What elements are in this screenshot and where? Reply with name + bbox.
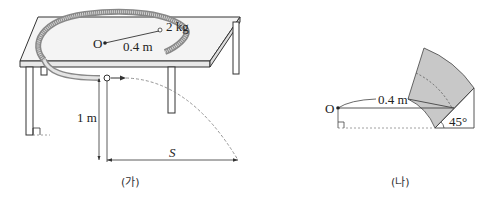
height-label: 1 m <box>77 110 97 125</box>
radius-leader-b <box>338 99 376 108</box>
height-arrow-bottom <box>98 156 101 160</box>
diagram-canvas: O 0.4 m 2 kg 1 m S (가) O 0.4 m <box>0 0 491 200</box>
figure-b: O 0.4 m 45° (나) <box>325 48 474 189</box>
figure-a: O 0.4 m 2 kg 1 m S (가) <box>20 12 240 189</box>
center-point-b <box>336 106 340 110</box>
angle-arc <box>441 122 444 128</box>
caption-b: (나) <box>391 176 410 189</box>
distance-arrow-right <box>233 158 238 161</box>
right-angle-mark-a <box>33 128 40 135</box>
velocity-arrowhead <box>120 76 126 81</box>
radius-label-a: 0.4 m <box>123 39 153 54</box>
center-label-a: O <box>93 36 102 51</box>
ball <box>104 75 110 81</box>
right-angle-mark-b <box>338 122 344 128</box>
table-leg-back-right <box>233 22 239 74</box>
trajectory <box>126 78 238 160</box>
distance-label: S <box>169 145 176 160</box>
radius-label-b: 0.4 m <box>378 92 408 107</box>
table-leg-front-left <box>26 67 33 135</box>
distance-arrow-left <box>107 158 112 161</box>
center-label-b: O <box>325 101 334 116</box>
mass-label: 2 kg <box>166 19 189 34</box>
angle-label: 45° <box>449 114 467 129</box>
caption-a: (가) <box>121 176 140 189</box>
